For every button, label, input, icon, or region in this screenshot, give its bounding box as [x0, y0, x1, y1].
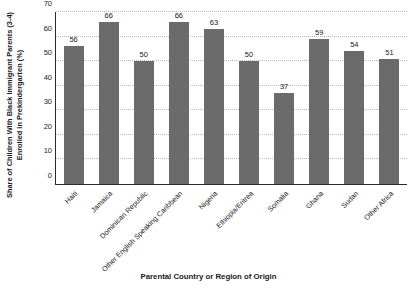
- y-axis-tick-label: 10: [44, 146, 52, 155]
- bar-slot: 63: [196, 12, 231, 184]
- y-axis-tick-label: 0: [48, 171, 52, 180]
- y-axis-tick-label: 30: [44, 97, 52, 106]
- x-axis-title: Parental Country or Region of Origin: [0, 272, 417, 281]
- x-axis-tick-label: Other Africa: [363, 189, 396, 222]
- bar-slot: 37: [267, 12, 302, 184]
- x-axis-tick-label: Haiti: [62, 189, 79, 206]
- bar[interactable]: 66: [99, 22, 119, 184]
- bar-slot: 56: [56, 12, 91, 184]
- bar-value-label: 66: [104, 11, 112, 20]
- x-axis-tick-label: Nigeria: [197, 189, 219, 211]
- bar[interactable]: 54: [344, 51, 364, 184]
- bar[interactable]: 56: [64, 46, 84, 184]
- x-axis-tick-label: Jamaica: [89, 189, 114, 214]
- bar-value-label: 54: [350, 40, 358, 49]
- bar-slot: 50: [126, 12, 161, 184]
- x-axis-tick-label: Ghana: [304, 189, 326, 211]
- bar-slot: 54: [337, 12, 372, 184]
- x-axis-tick-label: Somalia: [265, 189, 290, 214]
- x-axis-tick-label: Ethiopia/Eritrea: [214, 189, 255, 230]
- bar[interactable]: 66: [169, 22, 189, 184]
- y-axis-tick-label: 20: [44, 121, 52, 130]
- bar-value-label: 51: [385, 48, 393, 57]
- bar-value-label: 50: [140, 50, 148, 59]
- y-axis-tick-label: 50: [44, 48, 52, 57]
- bar-slot: 66: [161, 12, 196, 184]
- y-axis-title-line-2: Enrolled in Prekindergarten (%): [15, 12, 25, 198]
- bar-slot: 51: [372, 12, 407, 184]
- y-axis-tick-label: 60: [44, 23, 52, 32]
- x-axis-tick-label: Sudan: [340, 189, 361, 210]
- bar-value-label: 50: [245, 50, 253, 59]
- bar-value-label: 59: [315, 28, 323, 37]
- bar-slot: 59: [302, 12, 337, 184]
- bar[interactable]: 37: [274, 93, 294, 184]
- bar[interactable]: 59: [309, 39, 329, 184]
- y-axis-title-line-1: Share of Children With Black Immigrant P…: [5, 12, 15, 198]
- y-axis-tick-label: 70: [44, 0, 52, 8]
- plot-area: 010203040506070 56665066635037595451: [55, 12, 407, 185]
- bar-slot: 50: [231, 12, 266, 184]
- y-axis-tick-label: 40: [44, 72, 52, 81]
- bar-value-label: 63: [210, 18, 218, 27]
- bar-value-label: 37: [280, 82, 288, 91]
- bar-chart-figure: Share of Children With Black Immigrant P…: [0, 0, 417, 295]
- bar[interactable]: 50: [239, 61, 259, 184]
- bar-value-label: 56: [69, 35, 77, 44]
- bar-series: 56665066635037595451: [56, 12, 407, 184]
- bar[interactable]: 50: [134, 61, 154, 184]
- y-axis-title: Share of Children With Black Immigrant P…: [0, 0, 30, 210]
- bar[interactable]: 51: [379, 59, 399, 184]
- bar[interactable]: 63: [204, 29, 224, 184]
- bar-value-label: 66: [175, 11, 183, 20]
- bar-slot: 66: [91, 12, 126, 184]
